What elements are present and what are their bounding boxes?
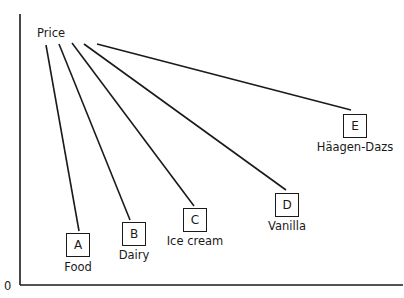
node-box-e: E xyxy=(343,114,367,138)
node-box-b: B xyxy=(122,222,146,246)
node-label-dairy: Dairy xyxy=(119,250,150,262)
node-box-c: C xyxy=(183,208,207,232)
root-label-price: Price xyxy=(37,28,65,40)
node-label-ice-cream: Ice cream xyxy=(167,236,224,248)
connector-c xyxy=(72,43,194,206)
node-box-d: D xyxy=(275,193,299,217)
connector-a xyxy=(46,45,79,231)
node-box-a: A xyxy=(66,233,90,257)
node-label-food: Food xyxy=(64,262,92,274)
connector-e xyxy=(97,44,351,110)
connector-d xyxy=(84,44,286,190)
origin-label: 0 xyxy=(4,281,11,293)
node-label-haagen-dazs: Häagen-Dazs xyxy=(317,142,394,154)
node-label-vanilla: Vanilla xyxy=(268,221,306,233)
